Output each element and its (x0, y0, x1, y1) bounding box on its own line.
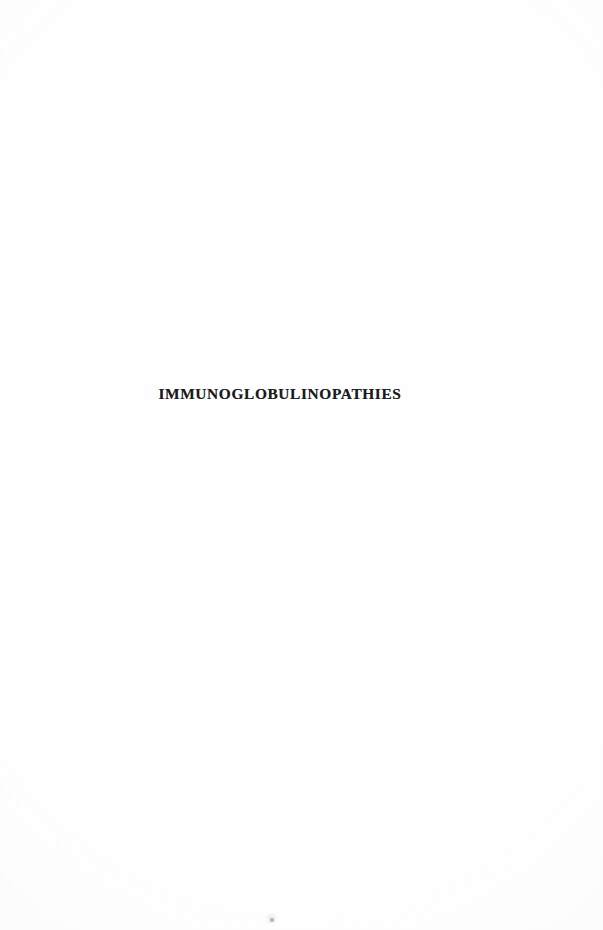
scan-artifact-speck (270, 918, 274, 922)
section-title-block: IMMUNOGLOBULINOPATHIES (0, 385, 560, 403)
page-title: IMMUNOGLOBULINOPATHIES (158, 385, 401, 403)
scanned-page: IMMUNOGLOBULINOPATHIES (0, 0, 603, 930)
